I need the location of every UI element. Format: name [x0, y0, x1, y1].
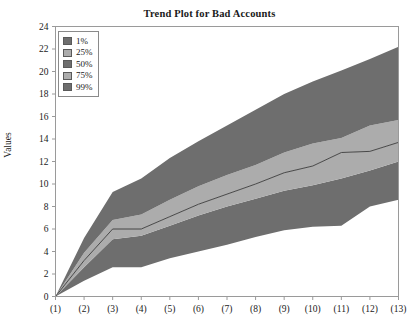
legend-swatch-icon: [63, 72, 72, 80]
y-tick-label: 8: [44, 202, 49, 212]
legend-item-label: 75%: [76, 71, 93, 80]
y-tick-label: 24: [39, 22, 49, 32]
x-tick-label: (6): [193, 304, 204, 315]
legend-swatch-icon: [63, 83, 72, 91]
y-tick-label: 20: [39, 67, 49, 77]
x-tick-label: (4): [136, 304, 147, 315]
x-tick-label: (12): [362, 304, 378, 315]
x-tick-label: (3): [107, 304, 118, 315]
y-tick-label: 0: [44, 292, 49, 302]
x-tick-label: (11): [334, 304, 349, 315]
x-tick-label: (9): [279, 304, 290, 315]
x-tick-label: (8): [250, 304, 261, 315]
legend-swatch-icon: [63, 37, 72, 45]
y-tick-label: 18: [39, 89, 49, 99]
legend-item-label: 25%: [76, 48, 93, 57]
y-tick-label: 10: [39, 179, 49, 189]
y-tick-label: 14: [39, 134, 49, 144]
x-tick-label: (7): [221, 304, 232, 315]
x-tick-label: (10): [305, 304, 321, 315]
x-tick-label: (2): [79, 304, 90, 315]
legend-item: 1%: [63, 36, 93, 47]
legend-item: 25%: [63, 47, 93, 58]
legend-swatch-icon: [63, 49, 72, 57]
x-tick-label: (13): [391, 304, 407, 315]
y-tick-label: 6: [44, 224, 49, 234]
chart-page: Trend Plot for Bad Accounts Values 02468…: [0, 0, 419, 329]
y-axis-ticks: 024681012141618202224: [39, 22, 56, 302]
x-tick-label: (5): [164, 304, 175, 315]
legend-item: 75%: [63, 70, 93, 81]
x-axis-ticks: (1)(2)(3)(4)(5)(6)(7)(8)(9)(10)(11)(12)(…: [50, 297, 406, 315]
x-tick-label: (1): [50, 304, 61, 315]
legend: 1%25%50%75%99%: [58, 31, 99, 97]
legend-item: 99%: [63, 82, 93, 93]
y-tick-label: 2: [44, 269, 49, 279]
legend-item-label: 99%: [76, 83, 93, 92]
legend-swatch-icon: [63, 60, 72, 68]
legend-item: 50%: [63, 59, 93, 70]
y-tick-label: 12: [39, 157, 49, 167]
plot-bands: [56, 47, 399, 297]
y-tick-label: 4: [44, 247, 49, 257]
y-tick-label: 22: [39, 44, 49, 54]
legend-item-label: 50%: [76, 60, 93, 69]
y-tick-label: 16: [39, 112, 49, 122]
legend-item-label: 1%: [76, 37, 88, 46]
